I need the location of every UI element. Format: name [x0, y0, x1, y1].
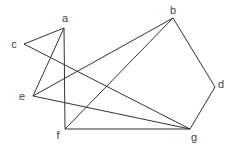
node-label-c: c — [11, 38, 17, 50]
edge-b-d — [173, 18, 215, 87]
graph-diagram: abcdefg — [0, 0, 235, 149]
graph-edges — [24, 18, 215, 129]
edge-e-g — [33, 96, 190, 129]
node-label-a: a — [62, 12, 69, 24]
node-label-d: d — [218, 78, 224, 90]
node-label-e: e — [19, 90, 25, 102]
node-label-g: g — [191, 131, 197, 143]
node-label-b: b — [170, 4, 176, 16]
edge-d-g — [190, 87, 215, 129]
node-label-f: f — [56, 129, 60, 141]
